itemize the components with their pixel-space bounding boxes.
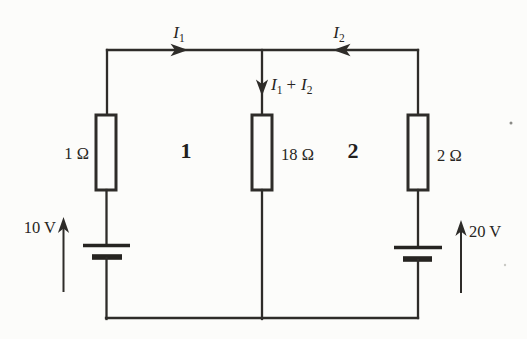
resistor-right-symbol (408, 115, 428, 190)
circuit-diagram: I1 I2 I1+I2 1 Ω 18 Ω 2 Ω 10 V 20 V 1 2 (0, 0, 527, 339)
resistor-left-label: 1 Ω (64, 144, 89, 163)
scan-speck (504, 264, 506, 266)
voltage-right-label: 20 V (469, 222, 501, 241)
voltage-left-label: 10 V (24, 218, 56, 237)
loop-1-label: 1 (181, 138, 192, 163)
resistor-left-symbol (96, 115, 116, 190)
current-i1-label: I1 (172, 23, 185, 44)
scan-speck (510, 122, 513, 125)
resistor-middle-label: 18 Ω (281, 145, 314, 164)
circuit-canvas: I1 I2 I1+I2 1 Ω 18 Ω 2 Ω 10 V 20 V 1 2 (0, 0, 527, 339)
current-sum-label: I1+I2 (270, 75, 313, 96)
current-i2-label: I2 (332, 23, 345, 44)
resistor-right-label: 2 Ω (437, 146, 462, 165)
resistor-middle-symbol (252, 115, 272, 190)
loop-2-label: 2 (348, 138, 359, 163)
